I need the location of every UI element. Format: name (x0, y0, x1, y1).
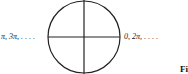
right-angle-label: 0, 2π, . . . . (124, 32, 158, 41)
left-angle-label: π, 3π, . . . . (1, 32, 35, 41)
figure-caption-fragment: Fi (180, 64, 188, 74)
